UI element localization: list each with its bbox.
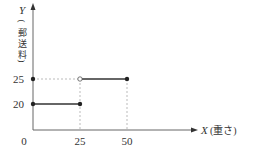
point-0-20 — [31, 102, 35, 106]
x-axis-arrow-icon — [191, 128, 198, 133]
x-axis-unit: (重さ) — [210, 124, 237, 137]
y-axis-var: Y — [19, 4, 27, 16]
y-unit-close-paren: ) — [17, 60, 27, 63]
x-tick-0: 0 — [21, 135, 27, 147]
y-unit-char-2: 送 — [18, 38, 27, 49]
point-0-25 — [31, 77, 35, 81]
x-tick-50: 50 — [122, 135, 134, 147]
y-axis-arrow-icon — [31, 3, 36, 10]
y-tick-25: 25 — [13, 73, 25, 85]
x-tick-25: 25 — [75, 135, 87, 147]
y-unit-open-paren: ( — [17, 20, 27, 23]
point-25-20 — [78, 102, 82, 106]
point-25-25-open — [78, 77, 82, 81]
y-unit-char-3: 料 — [18, 49, 27, 60]
y-unit-char-1: 郵 — [18, 27, 27, 38]
x-axis-var: X — [200, 124, 209, 136]
point-50-25 — [125, 77, 129, 81]
y-tick-20: 20 — [13, 98, 25, 110]
step-chart: 25 20 0 25 50 X (重さ) Y ( 郵 送 料 ) — [0, 0, 253, 153]
